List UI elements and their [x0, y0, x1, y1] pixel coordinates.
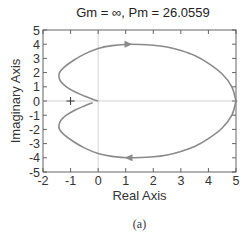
- y-tick-label: -2: [29, 123, 40, 137]
- plot-area: [43, 30, 237, 172]
- y-tick-label: -3: [29, 137, 40, 151]
- y-tick-label: 3: [33, 52, 40, 66]
- x-tick-label: 3: [177, 174, 184, 188]
- x-tick-label: 4: [205, 174, 212, 188]
- y-tick-label: -1: [29, 109, 40, 123]
- x-axis-label: Real Axis: [112, 188, 167, 203]
- x-tick-label: -1: [65, 174, 76, 188]
- chart-title: Gm = ∞, Pm = 26.0559: [76, 5, 210, 20]
- figure-caption: (a): [133, 217, 146, 231]
- y-tick-label: 0: [33, 95, 40, 109]
- x-tick-labels: -2-1012345: [37, 174, 239, 188]
- x-tick-label: 2: [150, 174, 157, 188]
- y-tick-label: 1: [33, 80, 40, 94]
- y-axis-label: Imaginary Axis: [8, 58, 23, 143]
- x-tick-label: 0: [95, 174, 102, 188]
- y-tick-label: -4: [29, 151, 40, 165]
- x-tick-label: 5: [233, 174, 240, 188]
- y-tick-labels: 543210-1-2-3-4-5: [29, 24, 40, 180]
- y-tick-label: 2: [33, 66, 40, 80]
- y-tick-label: 5: [33, 24, 40, 38]
- x-tick-label: 1: [122, 174, 129, 188]
- y-tick-label: -5: [29, 166, 40, 180]
- y-tick-label: 4: [33, 38, 40, 52]
- nyquist-chart: Gm = ∞, Pm = 26.0559 -2-1012345 543210-1…: [0, 0, 250, 235]
